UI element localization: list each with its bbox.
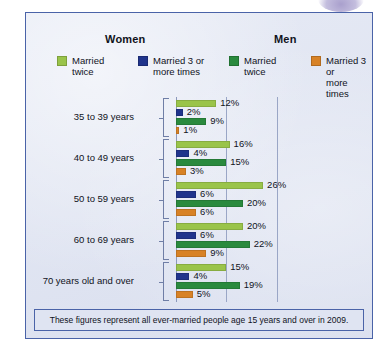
group-title-men: Men (274, 33, 297, 45)
bar-value-label: 5% (197, 288, 211, 299)
legend-label: Married twice (244, 55, 276, 77)
bar-value-label: 26% (267, 179, 286, 190)
group-bracket (163, 139, 169, 178)
legend-swatch-icon (229, 56, 239, 66)
bar-value-label: 6% (200, 229, 214, 240)
bar[interactable] (176, 168, 186, 175)
category-label: 70 years old and over (43, 275, 134, 286)
bar-value-label: 6% (200, 206, 214, 217)
bar-group: 35 to 39 years12%2%9%1% (26, 97, 372, 138)
bar-value-label: 4% (193, 270, 207, 281)
group-bracket (163, 180, 169, 219)
bar-value-label: 20% (247, 220, 266, 231)
bar[interactable] (176, 109, 183, 116)
bar-value-label: 2% (187, 106, 201, 117)
legend-swatch-icon (57, 56, 67, 66)
bar[interactable] (176, 250, 206, 257)
bar[interactable] (176, 209, 196, 216)
bar-value-label: 19% (244, 279, 263, 290)
bar-group: 40 to 49 years16%4%15%3% (26, 138, 372, 179)
bar-value-label: 3% (190, 165, 204, 176)
scan-artifact (318, 0, 364, 12)
bar-value-label: 9% (210, 115, 224, 126)
bar[interactable] (176, 273, 189, 280)
bar[interactable] (176, 191, 196, 198)
legend-label: Married twice (72, 55, 104, 77)
bar-value-label: 12% (220, 97, 239, 108)
bar-value-label: 15% (230, 156, 249, 167)
group-bracket (163, 98, 169, 137)
bar-value-label: 22% (254, 238, 273, 249)
bar-value-label: 20% (247, 197, 266, 208)
legend-item-men-married-3plus: Married 3 or more times (311, 55, 372, 99)
category-label: 60 to 69 years (74, 234, 134, 245)
legend-item-women-married-twice: Married twice (57, 55, 104, 77)
bar-group: 60 to 69 years20%6%22%9% (26, 220, 372, 261)
legend-label: Married 3 or more times (326, 55, 372, 99)
bar-value-label: 4% (193, 147, 207, 158)
footnote-box: These figures represent all ever-married… (34, 309, 364, 331)
bar[interactable] (176, 291, 193, 298)
legend-swatch-icon (311, 56, 321, 66)
bar[interactable] (176, 150, 189, 157)
bar-value-label: 6% (200, 188, 214, 199)
bar-value-label: 9% (210, 247, 224, 258)
legend-item-women-married-3plus: Married 3 or more times (138, 55, 204, 77)
category-label: 40 to 49 years (74, 152, 134, 163)
group-title-women: Women (105, 33, 146, 45)
legend-item-men-married-twice: Married twice (229, 55, 276, 77)
bar-value-label: 1% (183, 124, 197, 135)
bar-group: 70 years old and over15%4%19%5% (26, 261, 372, 302)
bar-value-label: 15% (230, 261, 249, 272)
legend-swatch-icon (138, 56, 148, 66)
bar[interactable] (176, 182, 263, 189)
chart-panel: Women Men Married twice Married 3 or mor… (25, 12, 373, 339)
bar[interactable] (176, 232, 196, 239)
category-label: 35 to 39 years (74, 111, 134, 122)
bar[interactable] (176, 127, 179, 134)
group-bracket (163, 262, 169, 301)
bar-chart-plot: 35 to 39 years12%2%9%1%40 to 49 years16%… (26, 97, 372, 302)
footnote-text: These figures represent all ever-married… (50, 315, 349, 325)
bar-group: 50 to 59 years26%6%20%6% (26, 179, 372, 220)
category-label: 50 to 59 years (74, 193, 134, 204)
legend-label: Married 3 or more times (153, 55, 204, 77)
group-bracket (163, 221, 169, 260)
bar-value-label: 16% (234, 138, 253, 149)
